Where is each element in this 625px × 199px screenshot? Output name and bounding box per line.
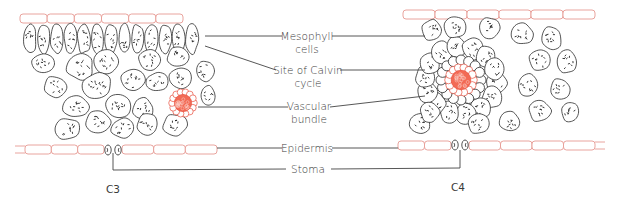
chloroplast bbox=[131, 75, 132, 76]
leader-calvin-left bbox=[205, 46, 276, 70]
chloroplast bbox=[76, 62, 77, 63]
leader-stoma-left bbox=[113, 153, 286, 170]
chloroplast bbox=[532, 90, 533, 91]
spongy-cell bbox=[169, 68, 191, 89]
chloroplast bbox=[184, 58, 185, 59]
palisade-cell bbox=[77, 24, 90, 53]
chloroplast bbox=[61, 43, 62, 44]
c4-upper-epidermis-cell bbox=[499, 10, 531, 19]
chloroplast bbox=[59, 37, 60, 38]
chloroplast bbox=[496, 74, 497, 75]
c3-lower-epidermis-cell bbox=[78, 145, 104, 154]
chloroplast bbox=[492, 80, 493, 81]
chloroplast bbox=[420, 80, 421, 81]
mesophyll-cell bbox=[529, 100, 552, 121]
chloroplast bbox=[55, 44, 56, 45]
chloroplast bbox=[76, 102, 77, 103]
chloroplast bbox=[87, 66, 88, 67]
spongy-cell bbox=[94, 50, 119, 74]
chloroplast bbox=[32, 35, 33, 36]
chloroplast bbox=[57, 37, 58, 38]
chloroplast bbox=[423, 75, 424, 76]
label-stoma: Stoma bbox=[291, 163, 325, 175]
chloroplast bbox=[144, 57, 145, 58]
chloroplast bbox=[121, 123, 122, 124]
c4-stoma bbox=[452, 140, 468, 150]
chloroplast bbox=[175, 51, 176, 52]
chloroplast bbox=[179, 38, 180, 39]
chloroplast bbox=[99, 46, 100, 47]
chloroplast bbox=[163, 82, 164, 83]
palisade-cell bbox=[24, 24, 36, 53]
chloroplast bbox=[181, 79, 182, 80]
palisade-cell bbox=[64, 23, 77, 53]
chloroplast bbox=[165, 34, 166, 35]
c3-upper-epidermis-cell bbox=[102, 14, 129, 23]
c4-lower-epidermis-cell bbox=[469, 141, 501, 150]
chloroplast bbox=[463, 117, 464, 118]
c3-vascular-bundle bbox=[169, 89, 198, 117]
chloroplast bbox=[78, 72, 79, 73]
palisade-cell bbox=[38, 25, 50, 54]
chloroplast bbox=[168, 36, 169, 37]
chloroplast bbox=[136, 76, 137, 77]
chloroplast bbox=[490, 64, 491, 65]
spongy-cell bbox=[146, 72, 168, 90]
chloroplast bbox=[557, 88, 558, 89]
chloroplast bbox=[431, 68, 432, 69]
chloroplast bbox=[152, 57, 153, 58]
chloroplast bbox=[148, 125, 149, 126]
radial-mesophyll-cell bbox=[485, 58, 504, 80]
mesophyll-cell bbox=[529, 50, 550, 70]
palisade-cell bbox=[132, 25, 144, 53]
c4-upper-epidermis bbox=[403, 10, 595, 19]
chloroplast bbox=[191, 38, 192, 39]
chloroplast bbox=[70, 33, 71, 34]
c3-lower-epidermis-cell bbox=[185, 145, 217, 154]
chloroplast bbox=[491, 25, 492, 26]
palisade-cell bbox=[50, 24, 63, 54]
mesophyll-cell bbox=[511, 23, 533, 44]
spongy-cell bbox=[111, 118, 134, 138]
chloroplast bbox=[26, 37, 27, 38]
c3-upper-epidermis-cell bbox=[156, 14, 183, 23]
chloroplast bbox=[209, 99, 210, 100]
chloroplast bbox=[78, 63, 79, 64]
labels: Mesophyll cells Site of Calvin cycle Vas… bbox=[106, 30, 465, 195]
chloroplast bbox=[104, 122, 105, 123]
spongy-cell bbox=[197, 61, 215, 81]
chloroplast bbox=[116, 106, 117, 107]
chloroplast bbox=[53, 38, 54, 39]
chloroplast bbox=[433, 91, 434, 92]
chloroplast bbox=[98, 126, 99, 127]
chloroplast bbox=[509, 124, 510, 125]
chloroplast bbox=[97, 118, 98, 119]
c4-lower-epidermis-cell bbox=[501, 141, 533, 150]
chloroplast bbox=[118, 132, 119, 133]
chloroplast bbox=[531, 81, 532, 82]
chloroplast bbox=[445, 52, 446, 53]
chloroplast bbox=[202, 74, 203, 75]
chloroplast bbox=[425, 110, 426, 111]
chloroplast bbox=[105, 56, 106, 57]
chloroplast bbox=[524, 87, 525, 88]
chloroplast bbox=[468, 48, 469, 49]
c3-lower-epidermis-cell bbox=[122, 145, 154, 154]
chloroplast bbox=[563, 85, 564, 86]
chloroplast bbox=[480, 127, 481, 128]
spongy-cell bbox=[163, 115, 188, 136]
palisade-cell bbox=[159, 25, 172, 54]
chloroplast bbox=[87, 45, 88, 46]
spongy-cell bbox=[139, 50, 161, 71]
c4-upper-epidermis-cell bbox=[467, 10, 499, 19]
chloroplast bbox=[498, 73, 499, 74]
c4-lower-epidermis-cell bbox=[425, 141, 452, 150]
chloroplast bbox=[484, 103, 485, 104]
chloroplast bbox=[100, 37, 101, 38]
chloroplast bbox=[483, 58, 484, 59]
chloroplast bbox=[455, 28, 456, 29]
label-mesophyll-line1: Mesophyll bbox=[281, 30, 334, 42]
chloroplast bbox=[530, 90, 531, 91]
chloroplast bbox=[432, 92, 433, 93]
chloroplast bbox=[463, 115, 464, 116]
